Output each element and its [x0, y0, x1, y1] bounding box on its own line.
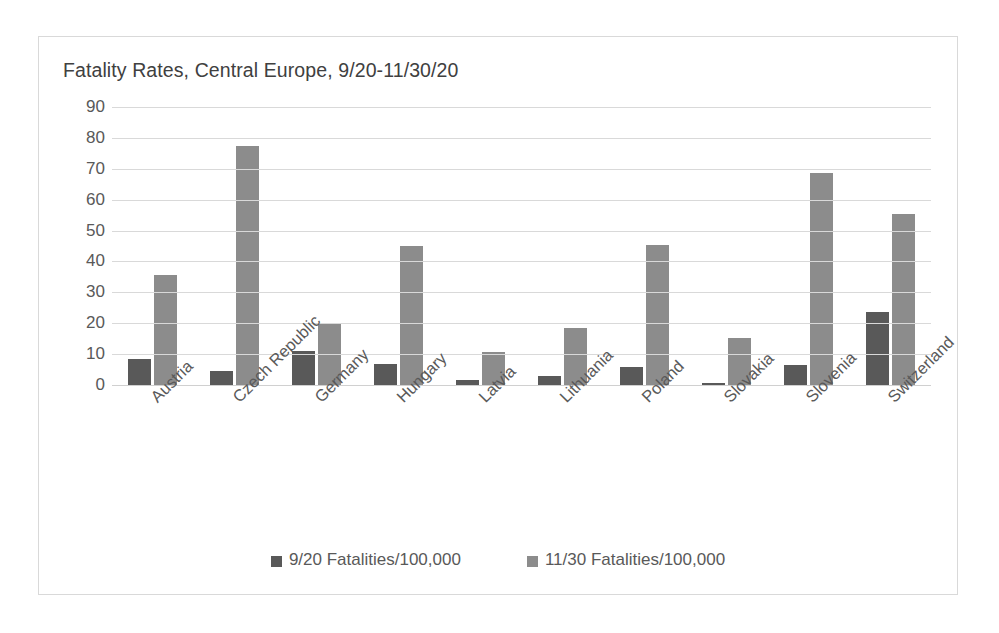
bar-switzerland-series-1[interactable] [892, 214, 915, 385]
x-axis-labels: AustriaCzech RepublicGermanyHungaryLatvi… [112, 387, 931, 497]
gridline [112, 231, 931, 232]
gridline [112, 292, 931, 293]
chart-title: Fatality Rates, Central Europe, 9/20-11/… [63, 59, 458, 82]
x-axis-tick: Switzerland [849, 387, 931, 497]
y-axis-tick-label: 40 [86, 251, 105, 271]
bar-group [849, 107, 931, 385]
bar-group [685, 107, 767, 385]
gridline [112, 138, 931, 139]
y-axis-tick-label: 60 [86, 190, 105, 210]
x-axis-tick: Slovenia [767, 387, 849, 497]
y-axis-tick-label: 10 [86, 344, 105, 364]
x-axis-tick: Hungary [358, 387, 440, 497]
legend-item-series-1: 11/30 Fatalities/100,000 [527, 550, 725, 570]
x-axis-tick: Lithuania [522, 387, 604, 497]
x-axis-tick: Germany [276, 387, 358, 497]
gridline [112, 323, 931, 324]
bar-czech-republic-series-0[interactable] [210, 371, 233, 385]
x-axis-tick: Austria [112, 387, 194, 497]
legend-item-series-0: 9/20 Fatalities/100,000 [271, 550, 461, 570]
y-axis-tick-label: 90 [86, 97, 105, 117]
bar-group [112, 107, 194, 385]
bar-slovenia-series-0[interactable] [784, 365, 807, 385]
bar-group [194, 107, 276, 385]
bar-poland-series-0[interactable] [620, 367, 643, 385]
chart-container: Fatality Rates, Central Europe, 9/20-11/… [38, 36, 958, 595]
y-axis-tick-label: 50 [86, 221, 105, 241]
gridline [112, 200, 931, 201]
plot-canvas [112, 107, 931, 385]
bar-groups [112, 107, 931, 385]
y-axis-tick-label: 30 [86, 282, 105, 302]
bar-hungary-series-0[interactable] [374, 364, 397, 385]
bar-lithuania-series-0[interactable] [538, 376, 561, 385]
chart-legend: 9/20 Fatalities/100,000 11/30 Fatalities… [39, 550, 957, 570]
legend-label-series-1: 11/30 Fatalities/100,000 [545, 550, 725, 570]
y-axis-tick-label: 0 [96, 375, 105, 395]
bar-group [522, 107, 604, 385]
plot-area: 9080706050403020100 AustriaCzech Republi… [57, 107, 941, 427]
bar-group [767, 107, 849, 385]
bar-germany-series-0[interactable] [292, 351, 315, 385]
x-axis-tick: Czech Republic [194, 387, 276, 497]
y-axis-tick-label: 20 [86, 313, 105, 333]
x-axis-tick: Slovakia [685, 387, 767, 497]
bar-czech-republic-series-1[interactable] [236, 146, 259, 385]
bar-group [603, 107, 685, 385]
gridline [112, 169, 931, 170]
legend-label-series-0: 9/20 Fatalities/100,000 [289, 550, 461, 570]
legend-swatch-icon-series-0 [271, 556, 282, 567]
x-axis-tick: Latvia [440, 387, 522, 497]
y-axis-tick-label: 80 [86, 128, 105, 148]
bar-group [440, 107, 522, 385]
x-axis-tick: Poland [603, 387, 685, 497]
gridline [112, 354, 931, 355]
y-axis-tick-label: 70 [86, 159, 105, 179]
bar-austria-series-0[interactable] [128, 359, 151, 385]
gridline [112, 107, 931, 108]
bar-group [358, 107, 440, 385]
gridline [112, 261, 931, 262]
y-axis: 9080706050403020100 [57, 107, 105, 385]
legend-swatch-icon-series-1 [527, 556, 538, 567]
bar-hungary-series-1[interactable] [400, 246, 423, 385]
